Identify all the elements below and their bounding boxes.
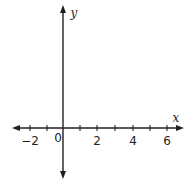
coordinate-plane: −2 0 2 4 6 x y: [0, 0, 195, 181]
y-axis: y: [60, 5, 78, 179]
x-axis-label: x: [173, 111, 180, 125]
y-axis-up-arrow-icon: [60, 5, 66, 13]
x-axis-left-arrow-icon: [12, 125, 20, 131]
x-tick-label-neg2: −2: [21, 134, 39, 148]
y-axis-label: y: [70, 6, 78, 20]
x-tick-label-6: 6: [163, 134, 171, 148]
x-tick-label-2: 2: [93, 134, 101, 148]
x-tick-label-4: 4: [129, 134, 137, 148]
y-axis-down-arrow-icon: [60, 171, 66, 179]
x-axis-right-arrow-icon: [176, 125, 184, 131]
x-axis: −2 0 2 4 6 x: [12, 111, 184, 148]
origin-label: 0: [54, 131, 62, 145]
